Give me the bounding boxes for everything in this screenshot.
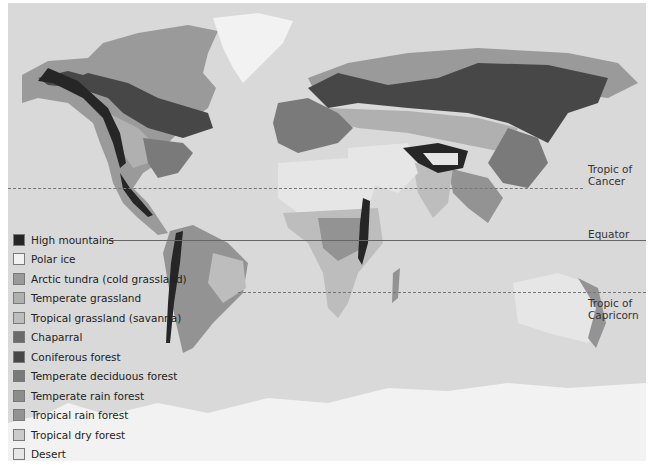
legend-swatch xyxy=(13,409,25,421)
equator-text: Equator xyxy=(588,228,629,240)
legend-swatch xyxy=(13,429,25,441)
equator-line xyxy=(108,240,646,241)
legend-item: High mountains xyxy=(13,230,187,250)
biome-legend: High mountainsPolar iceArctic tundra (co… xyxy=(13,230,187,464)
legend-item: Chaparral xyxy=(13,328,187,348)
greenland-ice xyxy=(213,13,293,83)
north-america-deciduous xyxy=(143,138,193,178)
legend-swatch xyxy=(13,390,25,402)
legend-label: Temperate rain forest xyxy=(31,390,144,402)
tropic-of-capricorn-line xyxy=(238,292,646,293)
legend-swatch xyxy=(13,331,25,343)
tropic-of-capricorn-label: Tropic of Capricorn xyxy=(588,297,639,321)
legend-label: Desert xyxy=(31,448,66,460)
legend-item: Temperate grassland xyxy=(13,289,187,309)
legend-label: Chaparral xyxy=(31,331,82,343)
legend-label: Temperate deciduous forest xyxy=(31,370,177,382)
tropic-of-cancer-line2: Cancer xyxy=(588,175,632,187)
legend-item: Arctic tundra (cold grassland) xyxy=(13,269,187,289)
legend-item: Desert xyxy=(13,445,187,465)
legend-swatch xyxy=(13,448,25,460)
legend-swatch xyxy=(13,292,25,304)
legend-label: Tropical dry forest xyxy=(31,429,125,441)
tropic-of-cancer-line xyxy=(8,188,583,189)
legend-item: Tropical rain forest xyxy=(13,406,187,426)
legend-label: Arctic tundra (cold grassland) xyxy=(31,273,187,285)
tropic-of-capricorn-line1: Tropic of xyxy=(588,297,639,309)
legend-swatch xyxy=(13,370,25,382)
india xyxy=(413,163,453,218)
legend-label: Polar ice xyxy=(31,253,76,265)
legend-swatch xyxy=(13,273,25,285)
southeast-asia xyxy=(448,168,503,223)
legend-swatch xyxy=(13,253,25,265)
legend-label: Tropical grassland (savanna) xyxy=(31,312,181,324)
legend-item: Temperate deciduous forest xyxy=(13,367,187,387)
tropic-of-cancer-line1: Tropic of xyxy=(588,163,632,175)
legend-label: Coniferous forest xyxy=(31,351,121,363)
legend-item: Tropical grassland (savanna) xyxy=(13,308,187,328)
legend-item: Coniferous forest xyxy=(13,347,187,367)
tropic-of-capricorn-line2: Capricorn xyxy=(588,309,639,321)
legend-swatch xyxy=(13,351,25,363)
legend-swatch xyxy=(13,234,25,246)
legend-label: Tropical rain forest xyxy=(31,409,128,421)
madagascar xyxy=(392,268,400,303)
legend-label: High mountains xyxy=(31,234,114,246)
legend-item: Polar ice xyxy=(13,250,187,270)
europe-deciduous xyxy=(273,98,353,153)
tropic-of-cancer-label: Tropic of Cancer xyxy=(588,163,632,187)
legend-item: Temperate rain forest xyxy=(13,386,187,406)
equator-label: Equator xyxy=(588,228,629,240)
legend-item: Tropical dry forest xyxy=(13,425,187,445)
legend-swatch xyxy=(13,312,25,324)
legend-label: Temperate grassland xyxy=(31,292,141,304)
